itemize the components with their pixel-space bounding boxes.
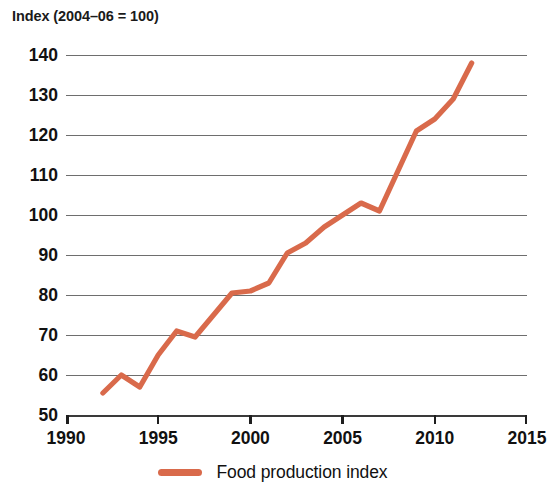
legend-label-food-production-index: Food production index	[216, 462, 387, 483]
series-line-food-production-index	[103, 63, 472, 393]
chart-legend: Food production index	[0, 462, 546, 483]
legend-swatch-food-production-index	[158, 469, 202, 476]
